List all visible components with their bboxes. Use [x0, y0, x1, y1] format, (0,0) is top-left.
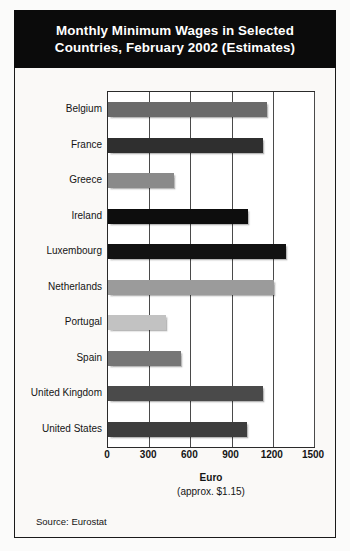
category-label-greece: Greece [14, 162, 102, 198]
bar-row [108, 234, 314, 270]
x-tick-label-300: 300 [140, 449, 157, 460]
x-axis-title: Euro [107, 472, 315, 483]
bar-ireland [108, 209, 248, 224]
category-label-portugal: Portugal [14, 304, 102, 340]
bar-netherlands [108, 280, 274, 295]
bar-row [108, 376, 314, 412]
bar-row [108, 163, 314, 199]
category-label-united-states: United States [14, 411, 102, 447]
x-tick-label-1200: 1200 [261, 449, 283, 460]
category-label-spain: Spain [14, 340, 102, 376]
x-axis-subtitle: (approx. $1.15) [107, 486, 315, 497]
x-tick-label-900: 900 [222, 449, 239, 460]
chart-title-line-2: Countries, February 2002 (Estimates) [55, 39, 295, 56]
bar-united-states [108, 422, 247, 437]
bar-luxembourg [108, 244, 286, 259]
x-tick-label-600: 600 [181, 449, 198, 460]
bar-spain [108, 351, 181, 366]
bar-row [108, 341, 314, 377]
gridline-1500 [314, 92, 315, 447]
bar-row [108, 270, 314, 306]
bar-row [108, 412, 314, 448]
chart-title-line-1: Monthly Minimum Wages in Selected [56, 22, 294, 39]
bar-row [108, 199, 314, 235]
bar-portugal [108, 315, 166, 330]
bar-greece [108, 173, 174, 188]
category-label-netherlands: Netherlands [14, 269, 102, 305]
source-note: Source: Eurostat [36, 516, 107, 527]
bar-belgium [108, 102, 267, 117]
bar-row [108, 92, 314, 128]
category-label-belgium: Belgium [14, 91, 102, 127]
category-label-france: France [14, 127, 102, 163]
chart-page: Monthly Minimum Wages in Selected Countr… [0, 0, 350, 551]
chart-title-bar: Monthly Minimum Wages in Selected Countr… [14, 10, 336, 68]
bar-row [108, 128, 314, 164]
bar-rows [108, 92, 314, 447]
bar-row [108, 305, 314, 341]
x-tick-label-0: 0 [104, 449, 110, 460]
bar-united-kingdom [108, 386, 263, 401]
category-axis-labels: BelgiumFranceGreeceIrelandLuxembourgNeth… [14, 91, 102, 446]
plot-area [107, 91, 315, 448]
category-label-united-kingdom: United Kingdom [14, 375, 102, 411]
chart-area: BelgiumFranceGreeceIrelandLuxembourgNeth… [14, 68, 336, 538]
x-axis-ticks: 030060090012001500 [107, 449, 315, 465]
bar-france [108, 138, 263, 153]
category-label-ireland: Ireland [14, 198, 102, 234]
category-label-luxembourg: Luxembourg [14, 233, 102, 269]
x-tick-label-1500: 1500 [302, 449, 324, 460]
